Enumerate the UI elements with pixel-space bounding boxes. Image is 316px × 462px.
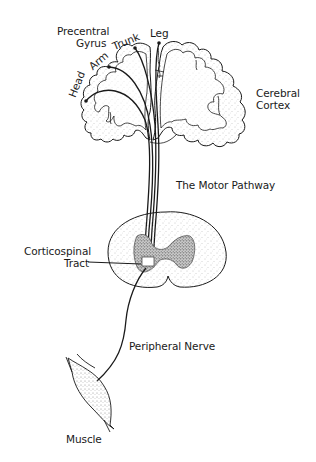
label-motor-pathway: The Motor Pathway — [176, 179, 275, 191]
spinal-cord-section — [108, 212, 226, 288]
label-corticospinal-tract-line2: Tract — [64, 257, 89, 269]
label-peripheral-nerve: Peripheral Nerve — [129, 340, 215, 352]
label-corticospinal-tract-line1: Corticospinal — [24, 245, 91, 257]
label-cerebral-cortex-line2: Cortex — [256, 99, 290, 111]
muscle — [66, 354, 114, 432]
label-precentral-gyrus-line2: Gyrus — [76, 37, 106, 49]
corticospinal-tract-area — [142, 257, 154, 266]
label-leg: Leg — [150, 27, 169, 39]
label-cerebral-cortex-line1: Cerebral — [256, 87, 300, 99]
label-precentral-gyrus-line1: Precentral — [57, 25, 109, 37]
motor-pathway-diagram — [0, 0, 316, 462]
muscle-belly — [68, 358, 114, 429]
label-muscle: Muscle — [66, 433, 102, 445]
